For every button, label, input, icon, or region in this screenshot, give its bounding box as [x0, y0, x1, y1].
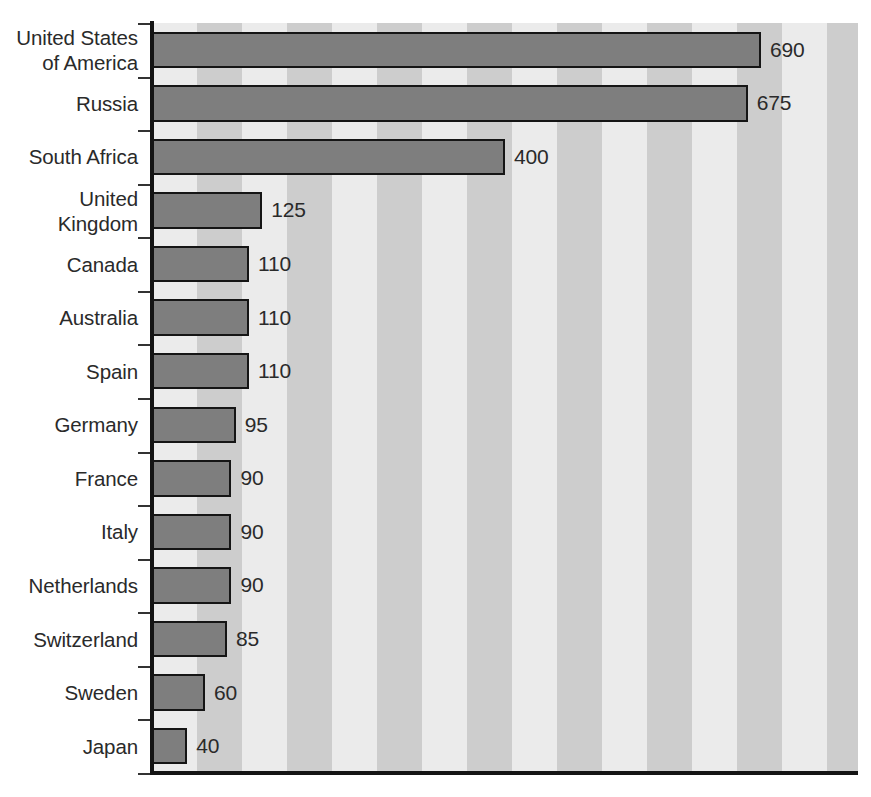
bar-row: 110 — [152, 299, 871, 335]
background-band — [557, 23, 602, 773]
bar — [152, 139, 505, 175]
bar — [152, 728, 187, 764]
bar — [152, 246, 249, 282]
category-label-line: Kingdom — [0, 211, 138, 236]
x-axis-line — [150, 771, 858, 775]
category-label-line: Australia — [0, 305, 138, 330]
category-label-line: France — [0, 466, 138, 491]
bar-value-label: 40 — [196, 734, 219, 758]
bar-value-label: 690 — [770, 38, 804, 62]
background-band — [197, 23, 242, 773]
category-label: Germany — [0, 412, 146, 437]
plot-area: 69067540012511011011095909090856040 — [152, 23, 858, 773]
bar — [152, 567, 231, 603]
bar — [152, 407, 236, 443]
background-bands — [152, 23, 858, 773]
bar — [152, 85, 748, 121]
category-label: Netherlands — [0, 573, 146, 598]
bar-row: 110 — [152, 353, 871, 389]
category-label-line: of America — [0, 50, 138, 75]
background-band — [602, 23, 647, 773]
category-label-line: Spain — [0, 359, 138, 384]
category-label-line: Netherlands — [0, 573, 138, 598]
background-band — [647, 23, 692, 773]
bar — [152, 674, 205, 710]
bar-row: 95 — [152, 407, 871, 443]
bar-row: 60 — [152, 674, 871, 710]
bar — [152, 32, 761, 68]
bar-value-label: 110 — [258, 252, 291, 276]
bar-value-label: 90 — [240, 466, 263, 490]
category-label-line: Switzerland — [0, 627, 138, 652]
category-label-line: South Africa — [0, 144, 138, 169]
background-band — [287, 23, 332, 773]
bar-row: 90 — [152, 514, 871, 550]
category-label: Russia — [0, 91, 146, 116]
category-label: Sweden — [0, 680, 146, 705]
bar-value-label: 400 — [514, 145, 548, 169]
category-label-line: United — [0, 186, 138, 211]
bar-row: 110 — [152, 246, 871, 282]
bar — [152, 621, 227, 657]
bar — [152, 353, 249, 389]
category-label: Spain — [0, 359, 146, 384]
category-label: Switzerland — [0, 627, 146, 652]
category-label: UnitedKingdom — [0, 186, 146, 236]
background-band — [512, 23, 557, 773]
bar — [152, 514, 231, 550]
bar-value-label: 90 — [240, 520, 263, 544]
background-band — [332, 23, 377, 773]
bar — [152, 299, 249, 335]
category-label: United Statesof America — [0, 25, 146, 75]
bar-row: 690 — [152, 32, 871, 68]
category-label: Italy — [0, 519, 146, 544]
background-band — [377, 23, 422, 773]
background-band — [737, 23, 782, 773]
category-label-line: Japan — [0, 734, 138, 759]
category-label: Canada — [0, 252, 146, 277]
category-label-line: Russia — [0, 91, 138, 116]
bar-row: 40 — [152, 728, 871, 764]
category-label: France — [0, 466, 146, 491]
category-label-line: United States — [0, 25, 138, 50]
category-label: South Africa — [0, 144, 146, 169]
bar-value-label: 110 — [258, 359, 291, 383]
bar-row: 125 — [152, 192, 871, 228]
bar-row: 90 — [152, 567, 871, 603]
bar — [152, 460, 231, 496]
background-band — [242, 23, 287, 773]
background-band — [152, 23, 197, 773]
background-band — [782, 23, 827, 773]
bar-value-label: 110 — [258, 306, 291, 330]
bar-row: 90 — [152, 460, 871, 496]
background-band — [827, 23, 858, 773]
bar-value-label: 675 — [757, 91, 791, 115]
bar-value-label: 90 — [240, 573, 263, 597]
category-label-line: Italy — [0, 519, 138, 544]
bar-value-label: 125 — [271, 198, 305, 222]
bar-value-label: 95 — [245, 413, 268, 437]
bar-row: 675 — [152, 85, 871, 121]
category-label: Japan — [0, 734, 146, 759]
bar-row: 85 — [152, 621, 871, 657]
bar-chart: 69067540012511011011095909090856040 Unit… — [0, 0, 871, 797]
background-band — [422, 23, 467, 773]
category-label: Australia — [0, 305, 146, 330]
category-label-line: Canada — [0, 252, 138, 277]
bar-value-label: 60 — [214, 681, 237, 705]
bar-row: 400 — [152, 139, 871, 175]
bar — [152, 192, 262, 228]
background-band — [692, 23, 737, 773]
category-label-line: Sweden — [0, 680, 138, 705]
background-band — [467, 23, 512, 773]
category-label-line: Germany — [0, 412, 138, 437]
y-axis-line — [150, 21, 154, 775]
bar-value-label: 85 — [236, 627, 259, 651]
